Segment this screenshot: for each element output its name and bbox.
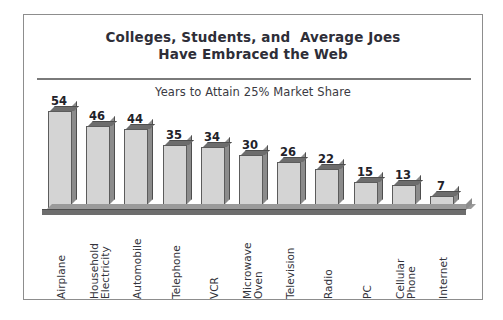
bar-front-face [124,129,148,209]
bar-body [124,129,148,209]
bar-front-face [86,126,110,209]
bar-front-face [201,147,225,209]
bar-body [163,145,187,209]
category-label: Telephone [164,217,190,299]
bar-front-face [163,145,187,209]
bar: 46 [86,126,116,209]
category-label-text: Cellular Phone [395,259,418,299]
bar-side-face [225,137,230,204]
category-label-text: Household Electricity [89,243,112,299]
category-label-text: Radio [323,269,335,299]
bar-side-face [72,101,77,204]
bar-side-face [148,119,153,204]
category-label: Internet [431,217,457,299]
bar-side-face [110,116,115,204]
category-label-text: Microwave Oven [242,243,265,299]
plot-area: 544644353430262215137 [42,111,466,209]
chart-title: Colleges, Students, and Average Joes Hav… [24,29,482,63]
category-label-text: VCR [209,277,221,299]
bar-body [48,111,72,209]
chart-title-line-2: Have Embraced the Web [24,46,482,63]
bar-body [86,126,110,209]
chart-title-line-1: Colleges, Students, and Average Joes [24,29,482,46]
bar-value-label: 15 [350,165,380,179]
bar: 35 [163,145,193,209]
category-label: Household Electricity [87,217,113,299]
bar-value-label: 7 [426,179,456,193]
bar-body [239,155,263,209]
bar-value-label: 30 [235,138,265,152]
bar-value-label: 13 [388,168,418,182]
category-label-text: Automobile [132,239,144,300]
bar: 26 [277,162,307,209]
bar-value-label: 54 [44,94,74,108]
bar-front-face [277,162,301,209]
category-label: Television [278,217,304,299]
category-label-text: Telephone [171,245,183,299]
bar-side-face [187,135,192,204]
bar-body [315,169,339,209]
bar-value-label: 34 [197,130,227,144]
title-divider [37,78,471,80]
category-axis: AirplaneHousehold ElectricityAutomobileT… [42,217,466,299]
bar-value-label: 22 [311,152,341,166]
bar: 44 [124,129,154,209]
bar: 30 [239,155,269,209]
bar: 54 [48,111,78,209]
category-label: Airplane [49,217,75,299]
category-label: Radio [316,217,342,299]
category-label-text: Television [285,247,297,299]
bar-body [201,147,225,209]
category-label: Automobile [125,217,151,299]
category-label: Microwave Oven [240,217,266,299]
bar: 34 [201,147,231,209]
bar-value-label: 46 [82,109,112,123]
chart-subtitle: Years to Attain 25% Market Share [24,85,482,99]
category-label-text: Internet [438,257,450,299]
category-label: Cellular Phone [393,217,419,299]
bar-front-face [315,169,339,209]
figure-frame: Colleges, Students, and Average Joes Hav… [23,14,483,300]
bar: 22 [315,169,345,209]
category-label-text: PC [362,285,374,299]
category-label: VCR [202,217,228,299]
bar-body [277,162,301,209]
category-label: PC [355,217,381,299]
category-label-text: Airplane [56,255,68,299]
bar-value-label: 26 [273,145,303,159]
bar-front-face [239,155,263,209]
bar-value-label: 35 [159,128,189,142]
bar-front-face [48,111,72,209]
baseline-floor [42,209,466,215]
bar-value-label: 44 [120,112,150,126]
